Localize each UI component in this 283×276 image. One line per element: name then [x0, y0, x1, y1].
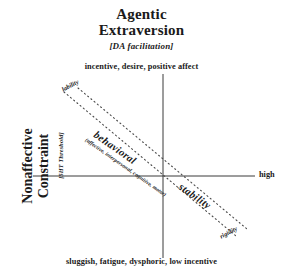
figure-title-line-2: Extraversion: [0, 22, 283, 38]
figure-title: Agentic Extraversion: [0, 6, 283, 38]
bottom-pole-caption: sluggish, fatigue, dysphoric, low incent…: [0, 257, 283, 266]
left-axis-bracket-label: [5HT Threshold]: [57, 106, 64, 206]
left-axis-title: Nonaffective Constraint: [20, 96, 52, 236]
left-axis-title-line-2: Constraint: [36, 96, 52, 236]
left-axis-title-group: Nonaffective Constraint [5HT Threshold]: [2, 98, 48, 238]
top-pole-caption: incentive, desire, positive affect: [0, 62, 283, 71]
right-axis-high-label: high: [259, 170, 275, 179]
figure-title-line-1: Agentic: [0, 6, 283, 22]
left-axis-title-line-1: Nonaffective: [20, 96, 36, 236]
figure-canvas: Agentic Extraversion [DA facilitation] i…: [0, 0, 283, 276]
diagonal-band-upper-dotted-line: [64, 92, 236, 236]
figure-subtitle-bracket: [DA facilitation]: [0, 41, 283, 51]
